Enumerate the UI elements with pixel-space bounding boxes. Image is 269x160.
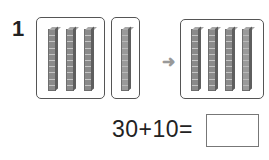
tens-rod [66,29,74,91]
tens-rod [208,29,216,91]
right-arrow-icon: ➜ [162,52,175,71]
group-one-ten [111,17,140,99]
tens-rod [225,29,233,91]
group-four-tens [180,19,264,99]
tens-rod [191,29,199,91]
problem-number: 1 [12,16,24,42]
equation: 30+10= [112,116,193,143]
group-three-tens [36,17,105,99]
answer-box[interactable] [206,114,259,147]
tens-rod [242,29,250,91]
tens-rod [48,29,56,91]
tens-rod [84,29,92,91]
tens-rod [121,29,129,91]
